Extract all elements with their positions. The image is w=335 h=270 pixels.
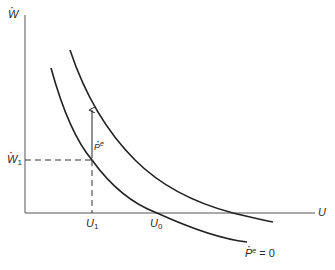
x-axis-label: U <box>318 206 326 218</box>
diagram-canvas <box>0 0 335 270</box>
u1-tick-label: U1 <box>86 217 98 231</box>
u0-tick-label: U0 <box>150 217 162 231</box>
phillips-curve-shifted <box>70 50 273 222</box>
expected-inflation-label: Pe <box>94 140 104 152</box>
phillips-curve-short-run <box>51 68 247 242</box>
curve-label: Pe = 0 <box>245 247 275 259</box>
w1-tick-label: W1 <box>7 153 22 167</box>
y-axis-label: W <box>8 8 18 20</box>
